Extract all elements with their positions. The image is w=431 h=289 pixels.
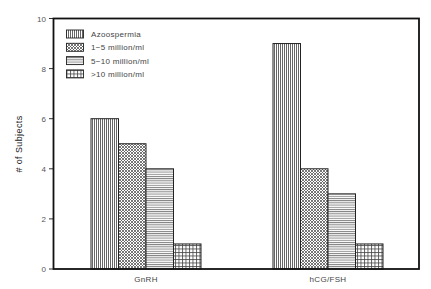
y-axis-label: # of Subjects <box>14 115 24 172</box>
legend-swatch <box>67 57 84 65</box>
legend-label: 5−10 million/ml <box>91 57 149 66</box>
x-category-label: hCG/FSH <box>310 275 347 284</box>
legend-swatch <box>67 70 84 78</box>
legend: Azoospermia1−5 million/ml5−10 million/ml… <box>67 30 150 79</box>
bar-gnrh-1 <box>119 144 147 269</box>
bar-hcgfsh-2 <box>328 194 356 269</box>
y-axis-ticks: 0246810 <box>37 15 53 275</box>
legend-swatch <box>67 43 84 51</box>
y-tick-label: 8 <box>42 65 47 74</box>
bar-hcgfsh-3 <box>356 244 384 269</box>
legend-label: >10 million/ml <box>91 70 144 79</box>
x-category-label: GnRH <box>134 275 157 284</box>
bar-gnrh-0 <box>91 119 119 269</box>
bar-gnrh-2 <box>146 169 174 269</box>
legend-label: 1−5 million/ml <box>91 43 144 52</box>
bar-hcgfsh-0 <box>273 44 301 269</box>
y-tick-label: 2 <box>42 215 47 224</box>
y-tick-label: 4 <box>42 165 47 174</box>
legend-swatch <box>67 30 84 38</box>
y-tick-label: 0 <box>42 265 47 274</box>
x-axis-categories: GnRHhCG/FSH <box>134 275 346 284</box>
legend-label: Azoospermia <box>91 30 141 39</box>
bar-hcgfsh-1 <box>301 169 329 269</box>
bar-gnrh-3 <box>174 244 202 269</box>
y-tick-label: 6 <box>42 115 47 124</box>
bar-chart: # of Subjects 0246810 GnRHhCG/FSH Azoosp… <box>0 0 431 289</box>
y-tick-label: 10 <box>37 15 46 24</box>
